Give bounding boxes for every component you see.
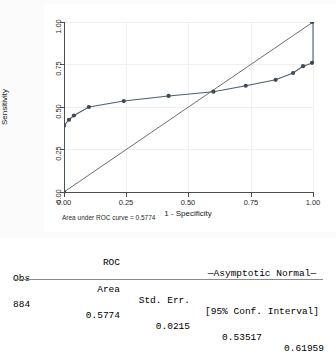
roc-marker — [72, 113, 76, 117]
roc-results-table: ROC —Asymptotic Normal— Obs Area Std. Er… — [0, 240, 336, 314]
auc-annotation: Area under ROC curve = 0.5774 — [62, 214, 155, 221]
cell-obs: 884 — [13, 299, 53, 310]
table-horizontal-rule — [13, 279, 323, 280]
y-tick-label-2: 0.50 — [54, 104, 63, 119]
x-axis-title: 1 - Specificity — [164, 209, 212, 218]
y-axis-title: Sensitivity — [0, 89, 9, 125]
roc-graph-panel: 0.00 0.25 0.50 0.75 1.00 0.00 0.25 0.50 … — [0, 0, 336, 238]
roc-marker — [67, 118, 71, 122]
roc-marker — [310, 61, 314, 65]
y-tick-label-1: 0.25 — [54, 146, 63, 161]
roc-marker — [166, 94, 170, 98]
roc-marker — [122, 99, 126, 103]
table-row: 884 0.5774 0.0215 0.53517 0.61959 — [0, 288, 336, 355]
roc-curve-svg — [64, 22, 314, 193]
reference-diagonal-line — [64, 22, 313, 192]
x-tick-label-1: 0.25 — [119, 198, 134, 207]
cell-ci-low: 0.53517 — [200, 332, 262, 343]
x-tick-1 — [126, 193, 127, 197]
roc-marker — [244, 84, 248, 88]
roc-marker — [291, 71, 295, 75]
x-tick-4 — [313, 193, 314, 197]
cell-ci-high: 0.61959 — [262, 343, 324, 354]
roc-marker — [274, 78, 278, 82]
y-tick-label-0: 0.00 — [54, 189, 63, 204]
x-tick-label-3: 0.75 — [244, 198, 259, 207]
x-tick-label-2: 0.50 — [181, 198, 196, 207]
y-tick-label-3: 0.75 — [54, 61, 63, 76]
cell-roc-area: 0.5774 — [62, 310, 120, 321]
x-tick-0 — [64, 193, 65, 197]
roc-marker — [211, 90, 215, 94]
roc-marker — [301, 64, 305, 68]
x-tick-2 — [188, 193, 189, 197]
x-tick-3 — [251, 193, 252, 197]
cell-std-err: 0.0215 — [128, 321, 190, 332]
y-tick-label-4: 1.00 — [54, 19, 63, 34]
roc-curve-markers — [64, 22, 314, 193]
x-tick-label-4: 1.00 — [306, 198, 321, 207]
roc-marker — [87, 105, 91, 109]
